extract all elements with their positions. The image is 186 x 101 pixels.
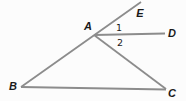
geometry-figure: A B C D E 1 2: [0, 0, 186, 101]
point-label-E: E: [136, 7, 144, 19]
point-label-D: D: [168, 27, 176, 39]
angle-label-2: 2: [117, 37, 123, 48]
point-label-A: A: [83, 20, 92, 32]
ray-A-D: [94, 34, 165, 36]
point-label-C: C: [168, 87, 177, 99]
segment-B-C: [21, 87, 166, 90]
point-label-B: B: [9, 80, 17, 92]
triangle-diagram-svg: A B C D E 1 2: [0, 0, 186, 101]
segment-A-C: [94, 35, 166, 89]
angle-label-1: 1: [116, 22, 122, 33]
